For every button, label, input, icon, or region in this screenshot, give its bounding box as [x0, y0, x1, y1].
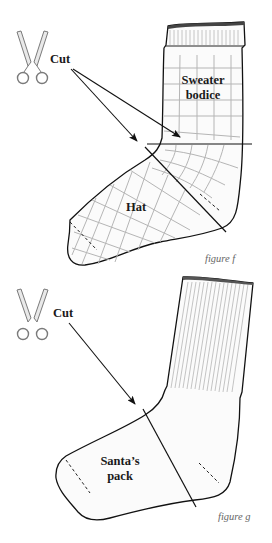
cut-arrow [71, 69, 137, 141]
figure-caption: figure g [218, 511, 251, 522]
cut-label: Cut [50, 52, 71, 66]
scissors-icon [17, 289, 48, 340]
figure-f: Cut Sweater bodice Hat figure f [17, 22, 252, 265]
figure-caption: figure f [205, 253, 237, 264]
region-label-sweater-bodice: bodice [186, 88, 221, 102]
scissors-icon [17, 31, 48, 84]
figure-g: Cut Santa’s pack figure g [17, 277, 253, 522]
region-label-santas-pack: pack [107, 469, 133, 483]
cut-label: Cut [53, 306, 74, 320]
region-label-sweater-bodice: Sweater [181, 73, 224, 87]
region-label-santas-pack: Santa’s [100, 454, 139, 468]
sock-cutting-diagram: Cut Sweater bodice Hat figure f [0, 0, 272, 543]
cut-arrow [69, 323, 135, 404]
region-label-hat: Hat [126, 200, 147, 214]
